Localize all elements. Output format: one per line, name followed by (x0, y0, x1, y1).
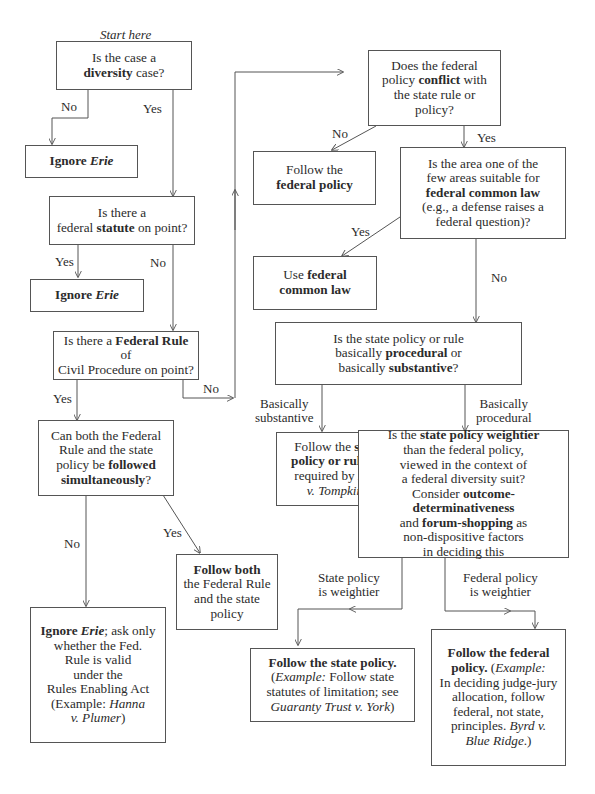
follow-federal-policy-final-box[interactable]: Follow the federal policy. (Example: In … (431, 629, 566, 766)
followed-simultaneously-question-box[interactable]: Can both the Federal Rule and the state … (38, 420, 174, 496)
procedural-or-substantive-question-box[interactable]: Is the state policy or rule basically pr… (275, 322, 522, 385)
edge-label-conflict-no: No (332, 127, 348, 141)
ignore-erie-ask-rules-enabling-act-box[interactable]: Ignore Erie; ask only whether the Fed. R… (30, 607, 166, 743)
federal-rule-question-box[interactable]: Is there a Federal Rule of Civil Procedu… (53, 331, 199, 380)
edge-label-frcp-no: No (203, 382, 219, 396)
edge-label-procedural: Basicallyprocedural (476, 397, 532, 425)
edge-label-diversity-yes: Yes (143, 102, 162, 116)
ignore-erie-box-1[interactable]: Ignore Erie (25, 145, 138, 178)
edge-label-statute-no: No (150, 256, 166, 270)
edge-label-state-weightier: State policyis weightier (318, 571, 380, 599)
edge-label-statute-yes: Yes (55, 255, 74, 269)
follow-federal-policy-box[interactable]: Follow the federal policy (253, 151, 376, 205)
edge-label-conflict-yes: Yes (477, 131, 496, 145)
state-policy-weightier-question-box[interactable]: Is the state policy weightier than the f… (358, 430, 569, 558)
follow-both-box[interactable]: Follow both the Federal Rule and the sta… (176, 554, 278, 630)
federal-statute-question-box[interactable]: Is there a federal statute on point? (49, 196, 195, 245)
edge-label-simul-yes: Yes (163, 526, 182, 540)
edge-label-federal-weightier: Federal policyis weightier (463, 571, 538, 599)
edge-label-frcp-yes: Yes (53, 392, 72, 406)
federal-conflict-question-box[interactable]: Does the federal policy conflict with th… (368, 50, 501, 126)
edge-label-simul-no: No (64, 537, 80, 551)
edge-label-common-no: No (491, 271, 507, 285)
diversity-question-box[interactable]: Is the case a diversity case? (56, 41, 192, 90)
edge-label-substantive: Basicallysubstantive (255, 397, 314, 425)
use-federal-common-law-box[interactable]: Use federal common law (253, 256, 377, 310)
federal-common-law-question-box[interactable]: Is the area one of the few areas suitabl… (400, 147, 566, 239)
edge-label-diversity-no: No (61, 100, 77, 114)
follow-state-policy-box[interactable]: Follow the state policy. (Example: Follo… (250, 648, 415, 722)
edge-label-common-yes: Yes (351, 225, 370, 239)
ignore-erie-box-2[interactable]: Ignore Erie (30, 279, 144, 312)
